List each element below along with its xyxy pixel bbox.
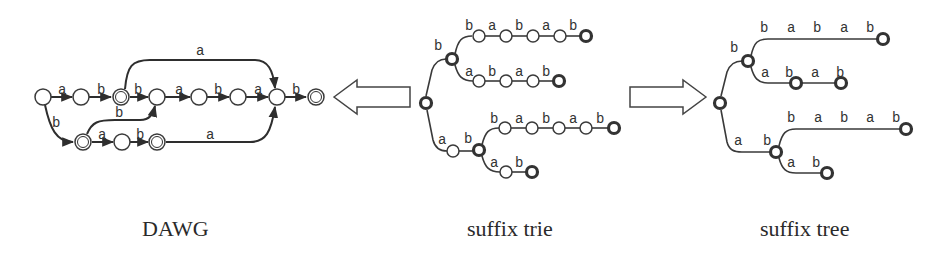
trie-node [500, 166, 512, 178]
edge-label: b [464, 131, 472, 147]
dawg-node [191, 89, 207, 105]
edge-label: b [596, 111, 604, 127]
edge-label: b [134, 82, 142, 98]
trie-node [500, 30, 512, 42]
dawg-node [35, 89, 51, 105]
dawg-node [269, 89, 285, 105]
edge-label: a [787, 20, 795, 36]
edge-label: b [515, 155, 523, 171]
trie-node [499, 122, 511, 134]
diagram-svg: a a b b a b a b b b a b a [0, 0, 945, 257]
edge-label: b [787, 110, 795, 126]
edge-label: b [542, 111, 550, 127]
left-arrow-icon [334, 80, 410, 114]
edge-label: a [787, 155, 795, 171]
edge-label: a [490, 155, 498, 171]
caption-suffix-tree: suffix tree [760, 216, 849, 241]
dawg-node [114, 134, 130, 150]
trie-node [474, 145, 485, 156]
edge-label: b [97, 82, 105, 98]
edge-label: a [569, 111, 577, 127]
trie-node [580, 122, 592, 134]
trie-node [527, 30, 539, 42]
dawg-node [149, 89, 165, 105]
trie-leaf [554, 76, 565, 87]
dawg-node [73, 89, 89, 105]
edge-label: a [488, 18, 496, 34]
trie-leaf [527, 167, 538, 178]
edge-label: a [254, 82, 262, 98]
edge-label: b [465, 18, 473, 34]
suffix-tree: b b a b a b a b a b a b b a b a b a b [715, 20, 912, 179]
edge-label: a [438, 132, 446, 148]
dawg-graph: a a b b a b a b b b a b a [35, 43, 324, 150]
caption-dawg: DAWG [142, 216, 209, 241]
edge-label: b [490, 111, 498, 127]
edge-label: b [730, 40, 738, 56]
edge-label: b [115, 105, 123, 121]
trie-node [473, 75, 485, 87]
edge-label: a [175, 82, 183, 98]
edge-label: b [763, 133, 771, 149]
trie-node [554, 30, 566, 42]
edge-label: a [542, 18, 550, 34]
tree-leaf [822, 168, 833, 179]
edge-label: b [785, 65, 793, 81]
edge-label: a [58, 82, 66, 98]
edge-label: b [569, 18, 577, 34]
trie-leaf [609, 123, 620, 134]
trie-node [447, 145, 459, 157]
tree-node [743, 56, 754, 67]
edge-label: b [813, 20, 821, 36]
diagram-canvas: a a b b a b a b b b a b a [0, 0, 945, 257]
edge-label: b [488, 64, 496, 80]
trie-node [553, 122, 565, 134]
edge-label: a [465, 64, 473, 80]
edge-label: b [760, 20, 768, 36]
tree-leaf [901, 124, 912, 135]
right-arrow-icon [630, 80, 706, 114]
edge-label: b [542, 64, 550, 80]
edge-label: a [814, 110, 822, 126]
trie-node [526, 122, 538, 134]
edge-label: a [811, 65, 819, 81]
trie-leaf [581, 31, 592, 42]
tree-leaf [878, 34, 889, 45]
edge-label: b [515, 18, 523, 34]
edge-label: a [866, 110, 874, 126]
edge-label: b [52, 115, 60, 131]
edge-label: b [892, 110, 900, 126]
edge-label: b [840, 110, 848, 126]
edge-label: b [434, 38, 442, 54]
edge-label: b [812, 155, 820, 171]
edge-label: a [196, 43, 204, 59]
edge-label: b [136, 127, 144, 143]
trie-node [473, 30, 485, 42]
caption-suffix-trie: suffix trie [467, 216, 553, 241]
edge-label: a [515, 64, 523, 80]
edge-label: a [761, 65, 769, 81]
tree-node [771, 147, 782, 158]
trie-node [527, 75, 539, 87]
suffix-trie: b b a b a b a b a b a b b a b a b a b [421, 18, 620, 178]
trie-root-node [421, 98, 432, 109]
edge-label: a [98, 127, 106, 143]
edge-label: a [515, 111, 523, 127]
edge-label: b [292, 82, 300, 98]
edge-label: b [214, 82, 222, 98]
trie-node [447, 54, 458, 65]
trie-node [500, 75, 512, 87]
tree-root-node [715, 98, 726, 109]
edge-label: a [840, 20, 848, 36]
dawg-node [230, 89, 246, 105]
edge-label: a [206, 127, 214, 143]
edge-label: a [734, 133, 742, 149]
edge-label: b [866, 20, 874, 36]
edge-label: b [836, 65, 844, 81]
